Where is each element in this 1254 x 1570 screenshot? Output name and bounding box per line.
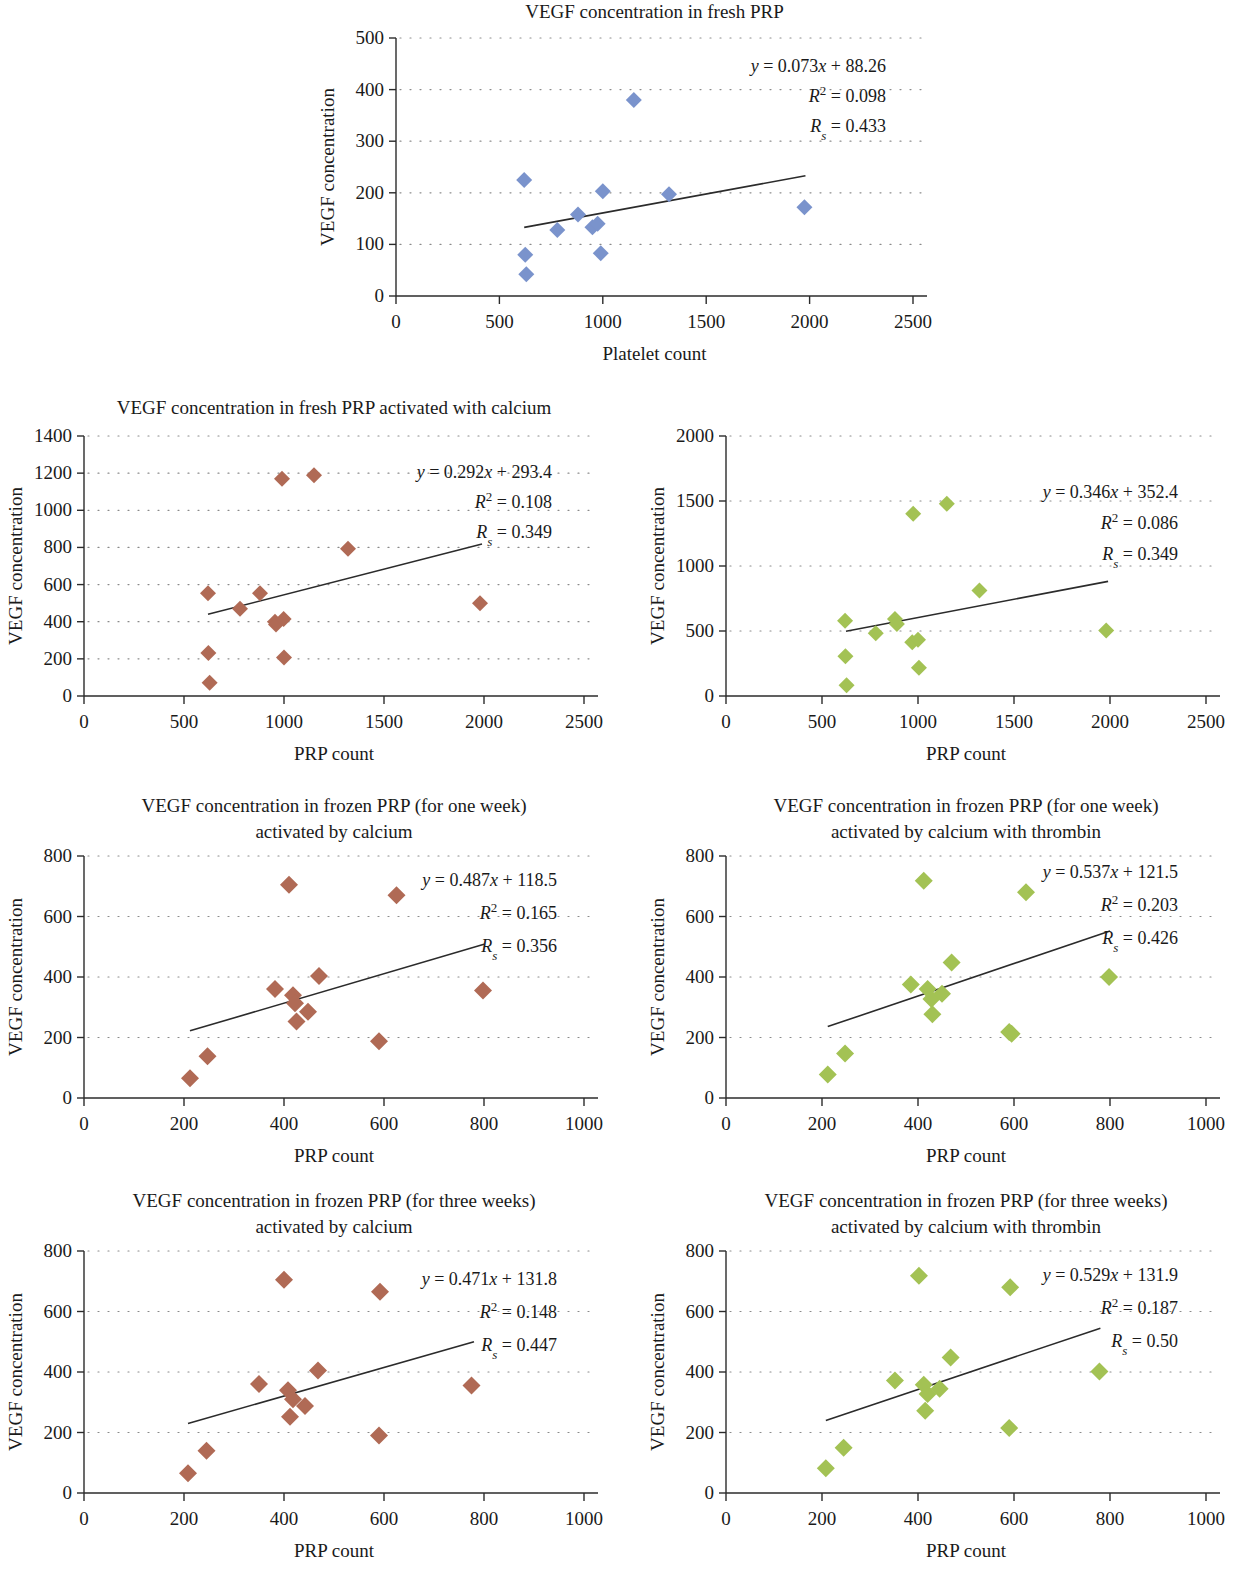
chart-title: VEGF concentration in frozen PRP (for on… [774,795,1159,842]
data-point-marker [306,467,322,483]
svg-text:VEGF concentration in frozen P: VEGF concentration in frozen PRP (for on… [774,795,1159,817]
chart-panel-frozen-three-weeks-calcium: VEGF concentration in frozen PRP (for th… [0,1185,632,1570]
chart-panel-fresh-prp: VEGF concentration in fresh PRP010020030… [300,0,950,370]
data-point-marker [1090,1362,1108,1380]
y-tick-label: 100 [356,233,385,254]
y-tick-label: 400 [356,79,385,100]
regression-annotation: y = 0.292x + 293.4R2 = 0.108Rs = 0.349 [415,462,552,549]
x-tick-label: 0 [721,711,731,732]
x-tick-label: 1000 [584,311,622,332]
y-tick-label: 200 [44,1027,73,1048]
x-tick-label: 2500 [894,311,932,332]
data-point-marker [275,1271,293,1289]
data-point-marker [549,222,565,238]
spearman-text: Rs = 0.50 [1110,1331,1178,1358]
x-tick-label: 2000 [791,311,829,332]
y-tick-label: 800 [44,1240,73,1261]
data-points [179,1271,481,1483]
data-points [819,872,1118,1084]
x-tick-label: 0 [79,1508,89,1529]
data-point-marker [916,1402,934,1420]
r-squared-text: R2 = 0.187 [1100,1295,1178,1319]
trendline [190,944,484,1031]
data-point-marker [202,675,218,691]
x-axis-label: PRP count [294,1145,375,1166]
svg-text:activated by calcium: activated by calcium [255,821,412,842]
chart-title: VEGF concentration in frozen PRP (for on… [142,795,527,842]
y-tick-label: 0 [63,1087,73,1108]
regression-annotation: y = 0.073x + 88.26R2 = 0.098Rs = 0.433 [749,56,886,143]
data-point-marker [371,1283,389,1301]
data-point-marker [517,247,533,263]
equation-text: y = 0.292x + 293.4 [415,462,552,482]
x-tick-label: 400 [270,1508,299,1529]
gridlines [730,436,1220,631]
x-tick-label: 1500 [687,311,725,332]
data-point-marker [595,183,611,199]
data-point-marker [1098,623,1114,639]
spearman-text: Rs = 0.356 [480,936,557,963]
y-tick-label: 0 [705,1482,715,1503]
equation-text: y = 0.537x + 121.5 [1041,862,1178,882]
y-tick-label: 800 [44,845,73,866]
data-point-marker [309,1361,327,1379]
y-tick-label: 600 [686,1301,715,1322]
trendline [188,1342,474,1424]
data-point-marker [839,677,855,693]
y-tick-label: 400 [44,966,73,987]
y-tick-label: 400 [44,1361,73,1382]
data-points [181,876,492,1088]
data-point-marker [593,245,609,261]
r-squared-text: R2 = 0.165 [479,900,557,924]
x-tick-label: 1000 [565,1113,603,1134]
y-tick-label: 1200 [34,462,72,483]
data-points [837,496,1114,693]
x-tick-label: 200 [170,1508,199,1529]
x-tick-label: 500 [170,711,199,732]
data-point-marker [198,1442,216,1460]
x-tick-label: 200 [808,1113,837,1134]
data-point-marker [370,1032,388,1050]
regression-annotation: y = 0.346x + 352.4R2 = 0.086Rs = 0.349 [1041,482,1178,571]
x-tick-label: 200 [170,1113,199,1134]
y-tick-label: 200 [686,1422,715,1443]
data-point-marker [868,625,884,641]
data-point-marker [837,648,853,664]
y-tick-label: 400 [44,611,73,632]
x-tick-label: 600 [370,1113,399,1134]
data-point-marker [388,886,406,904]
x-tick-label: 0 [79,711,89,732]
x-tick-label: 1500 [365,711,403,732]
data-point-marker [819,1065,837,1083]
svg-text:activated by calcium: activated by calcium [255,1216,412,1237]
y-axis-label: VEGF concentration [647,1293,668,1451]
chart-panel-fresh-calcium-thrombin: 050010001500200005001000150020002500PRP … [630,388,1254,778]
x-tick-label: 500 [808,711,837,732]
data-point-marker [943,953,961,971]
x-tick-label: 400 [904,1508,933,1529]
y-tick-label: 800 [686,1240,715,1261]
y-axis-label: VEGF concentration [5,1293,26,1451]
y-axis-label: VEGF concentration [317,88,338,246]
data-point-marker [817,1459,835,1477]
data-point-marker [266,980,284,998]
x-tick-label: 600 [1000,1508,1029,1529]
x-tick-label: 2500 [1187,711,1225,732]
trendline [208,544,482,614]
regression-annotation: y = 0.487x + 118.5R2 = 0.165Rs = 0.356 [420,870,557,963]
x-tick-label: 500 [485,311,514,332]
data-point-marker [518,266,534,282]
data-point-marker [1100,968,1118,986]
data-point-marker [1000,1419,1018,1437]
data-point-marker [626,92,642,108]
svg-text:VEGF concentration in fresh PR: VEGF concentration in fresh PRP activate… [117,397,552,418]
x-tick-label: 800 [1096,1113,1125,1134]
data-point-marker [836,1045,854,1063]
y-tick-label: 400 [686,1361,715,1382]
y-tick-label: 800 [686,845,715,866]
data-point-marker [837,613,853,629]
x-tick-label: 800 [1096,1508,1125,1529]
data-point-marker [474,982,492,1000]
svg-text:VEGF concentration in frozen P: VEGF concentration in frozen PRP (for th… [765,1190,1168,1212]
y-tick-label: 200 [44,648,73,669]
